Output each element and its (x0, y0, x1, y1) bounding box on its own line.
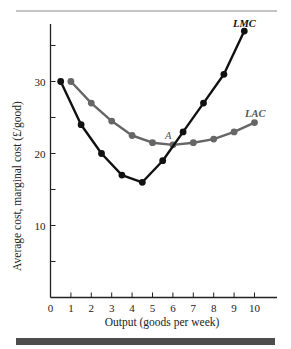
lac-point (88, 100, 95, 107)
lmc-point (57, 78, 64, 85)
point-a-label: A (164, 130, 172, 141)
x-tick-label: 7 (191, 302, 197, 314)
y-tick-label: 10 (35, 220, 47, 232)
x-tick-label: 4 (129, 302, 135, 314)
lac-point (251, 119, 258, 126)
lmc-point (200, 100, 207, 107)
series-lmc (57, 28, 247, 186)
lac-point (210, 136, 217, 143)
y-tick-label: 20 (35, 148, 47, 160)
lmc-point (139, 179, 146, 186)
x-tick-label: 6 (170, 302, 176, 314)
lac-line (71, 82, 255, 145)
lac-point (68, 78, 75, 85)
y-tick-label: 30 (35, 76, 47, 88)
lmc-point (119, 172, 126, 179)
lac-point (108, 118, 115, 125)
series-lac (68, 78, 258, 148)
x-tick-label: 10 (249, 302, 261, 314)
x-tick-label: 8 (211, 302, 217, 314)
lac-point (129, 132, 136, 139)
x-tick-label: 0 (48, 302, 54, 314)
x-axis-title: Output (goods per week) (105, 316, 220, 329)
cost-curves-chart: 012345678910102030 LMC LAC A Output (goo… (0, 0, 291, 349)
x-tick-label: 3 (109, 302, 115, 314)
lmc-point (221, 71, 228, 78)
x-tick-label: 9 (231, 302, 237, 314)
lmc-point (98, 150, 105, 157)
x-tick-label: 1 (68, 302, 74, 314)
lac-label: LAC (244, 108, 266, 119)
bottom-bar (16, 338, 275, 345)
lac-point (231, 129, 238, 136)
lmc-label: LMC (232, 18, 257, 29)
lac-point (149, 139, 156, 146)
lmc-line (61, 31, 245, 182)
x-tick-label: 2 (89, 302, 95, 314)
lmc-point (159, 157, 166, 164)
y-axis-title: Average cost, marginal cost (£/good) (11, 101, 24, 271)
series-layer (57, 28, 258, 186)
lac-point (190, 139, 197, 146)
lmc-point (78, 121, 85, 128)
lmc-point (180, 129, 187, 136)
x-tick-label: 5 (150, 302, 156, 314)
